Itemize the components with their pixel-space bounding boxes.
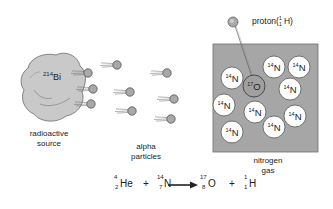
oxygen-nucleus: 17O <box>243 75 265 97</box>
o-mass: 17 <box>200 174 207 180</box>
alpha-particle <box>113 88 134 96</box>
nitrogen-caption: nitrogen gas <box>240 156 296 176</box>
alpha-caption-line2: particles <box>118 152 174 162</box>
alpha-particle <box>150 69 171 77</box>
proton-particle <box>228 17 238 27</box>
nitrogen-nucleus: 14N <box>221 121 243 143</box>
bi-symbol: Bi <box>53 72 61 82</box>
alpha-particle <box>115 107 136 115</box>
n-atomic: 7 <box>159 184 162 190</box>
eq-hydrogen: 1 1 H <box>243 178 256 189</box>
alpha-particle <box>100 61 121 69</box>
nitrogen-caption-line2: gas <box>240 166 296 176</box>
n-symbol: N <box>164 178 171 189</box>
nitrogen-nucleus: 14N <box>244 101 266 123</box>
he-symbol: He <box>120 178 133 189</box>
nitrogen-nucleus: 14N <box>213 94 235 116</box>
proton-label-close: ) <box>290 16 293 26</box>
o-atomic: 8 <box>202 184 205 190</box>
alpha-particles <box>71 61 178 123</box>
proton-label: proton(11H) <box>252 16 293 27</box>
nitrogen-nucleus: 14N <box>263 56 285 78</box>
nitrogen-nucleus: 14N <box>263 116 285 138</box>
proton-atomic: 1 <box>279 21 282 27</box>
bi-mass-number: 214 <box>43 71 53 77</box>
nitrogen-nucleus: 14N <box>279 78 301 100</box>
proton-label-text: proton( <box>252 16 279 26</box>
alpha-caption: alpha particles <box>118 142 174 162</box>
nitrogen-nucleus: 14N <box>288 56 310 78</box>
proton-notation: 11 <box>279 17 284 27</box>
source-isotope-label: 214Bi <box>36 69 68 82</box>
source-caption-line2: source <box>14 139 84 149</box>
nitrogen-nucleus: 14N <box>221 67 243 89</box>
eq-plus-2: + <box>229 178 235 189</box>
radioactive-source <box>21 53 85 121</box>
alpha-particle <box>154 115 175 123</box>
source-caption: radioactive source <box>14 129 84 149</box>
he-atomic: 2 <box>115 184 118 190</box>
eq-plus-1: + <box>143 178 149 189</box>
h-symbol: H <box>249 178 256 189</box>
n-mass: 14 <box>157 174 164 180</box>
nitrogen-nucleus: 14N <box>284 105 306 127</box>
alpha-caption-line1: alpha <box>118 142 174 152</box>
alpha-particle <box>157 95 178 103</box>
nitrogen-caption-line1: nitrogen <box>240 156 296 166</box>
o-symbol: O <box>208 178 216 189</box>
h-atomic: 1 <box>244 184 247 190</box>
source-caption-line1: radioactive <box>14 129 84 139</box>
h-mass: 1 <box>244 174 247 180</box>
eq-helium: 4 2 He <box>114 178 133 189</box>
he-mass: 4 <box>114 174 117 180</box>
reaction-arrow-icon <box>168 182 198 189</box>
